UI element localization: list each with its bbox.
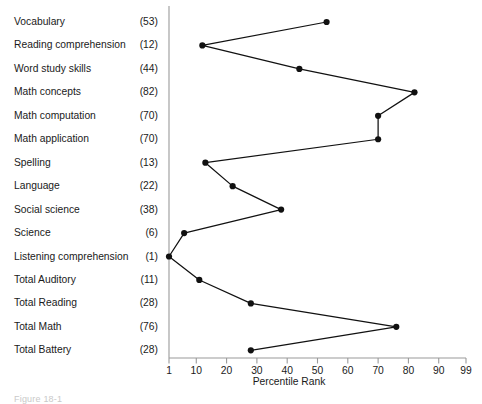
x-axis-tick-label: 90 [433,365,444,376]
data-point-marker [199,42,205,48]
data-point-marker [323,19,329,25]
chart-plot-area [0,0,482,404]
subtest-percentile-value: (44) [96,63,158,75]
subtest-percentile-value: (22) [96,180,158,192]
x-axis-tick-label: 40 [281,365,292,376]
subtest-percentile-value: (11) [96,274,158,286]
subtest-label: Math concepts [14,86,81,98]
x-axis-tick-label: 20 [221,365,232,376]
subtest-label: Vocabulary [14,16,65,28]
profile-markers [166,19,418,354]
subtest-percentile-value: (1) [96,251,158,263]
x-axis-tick-label: 80 [403,365,414,376]
subtest-percentile-value: (28) [96,297,158,309]
data-point-marker [202,160,208,166]
data-point-marker [196,277,202,283]
subtest-percentile-value: (70) [96,133,158,145]
subtest-label: Total Auditory [14,274,76,286]
subtest-label: Total Reading [14,297,77,309]
subtest-percentile-value: (38) [96,204,158,216]
data-point-marker [181,230,187,236]
percentile-rank-profile-figure: Vocabulary(53)Reading comprehension(12)W… [0,0,482,404]
subtest-percentile-value: (6) [96,227,158,239]
subtest-label: Word study skills [14,63,91,75]
subtest-percentile-value: (82) [96,86,158,98]
subtest-percentile-value: (28) [96,344,158,356]
subtest-label: Science [14,227,51,239]
x-axis-tick-label: 30 [251,365,262,376]
subtest-label: Social science [14,204,80,216]
x-axis-tick-label: 99 [460,365,471,376]
subtest-percentile-value: (12) [96,39,158,51]
data-point-marker [375,136,381,142]
data-point-marker [278,207,284,213]
x-axis-tick-label: 50 [312,365,323,376]
subtest-label: Language [14,180,60,192]
x-axis-tick-marks [169,358,466,364]
profile-line [169,22,414,350]
data-point-marker [411,89,417,95]
data-point-marker [375,113,381,119]
subtest-percentile-value: (13) [96,157,158,169]
x-axis-tick-label: 60 [342,365,353,376]
subtest-label: Total Battery [14,344,71,356]
x-axis-title: Percentile Rank [0,376,482,387]
subtest-label: Spelling [14,157,51,169]
figure-caption: Figure 18-1 [14,394,62,404]
subtest-percentile-value: (53) [96,16,158,28]
data-point-marker [296,66,302,72]
subtest-label: Total Math [14,321,62,333]
x-axis-title-text: Percentile Rank [253,376,326,387]
subtest-percentile-value: (76) [96,321,158,333]
x-axis-tick-label: 10 [191,365,202,376]
subtest-label: Math computation [14,110,96,122]
data-point-marker [393,324,399,330]
data-point-marker [248,347,254,353]
data-point-marker [166,253,172,259]
data-point-marker [248,300,254,306]
subtest-label: Math application [14,133,89,145]
x-axis-tick-label: 1 [166,365,172,376]
x-axis-tick-label: 70 [372,365,383,376]
data-point-marker [230,183,236,189]
subtest-percentile-value: (70) [96,110,158,122]
